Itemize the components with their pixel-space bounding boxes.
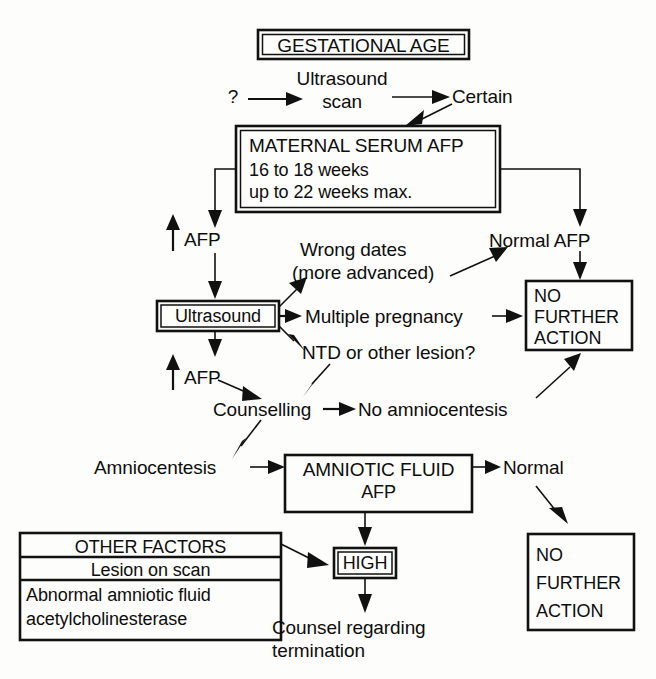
maternal-serum-afp-title: MATERNAL SERUM AFP [249,135,499,157]
raised-afp-arrow-glyph-1 [166,214,180,251]
wrong-dates-label-line2: (more advanced) [292,262,472,284]
no-further-action-top-line2: FURTHER [534,307,634,328]
counsel-termination-line1: Counsel regarding [272,617,492,639]
gestational-age-label: GESTATIONAL AGE [258,35,469,57]
edge-amniocentesis-to-amniotic-fluid-afp [250,460,285,474]
edge-amniotic-fluid-afp-to-high [358,512,372,546]
amniotic-fluid-afp-line2: AFP [288,482,469,503]
edge-ntd-lesion-to-counselling [303,364,330,397]
edge-normal-to-no-further-action-bottom [536,486,568,524]
edge-ultrasound-box-to-multiple-pregnancy [279,309,302,323]
edge-counselling-to-amniocentesis [232,420,261,459]
no-further-action-bottom-line1: NO [536,545,636,566]
ultrasound-scan-label-line1: Ultrasound [292,68,392,90]
other-factors-row2-line1: Abnormal amniotic fluid [26,585,281,606]
amniotic-fluid-afp-title: AMNIOTIC FLUID [288,459,469,481]
no-further-action-top-line1: NO [534,286,634,307]
raised-afp-arrow-glyph-2 [166,354,180,390]
other-factors-row2-line2: acetylcholinesterase [26,609,281,630]
edge-high-to-counsel-termination [358,578,372,613]
edge-amniotic-fluid-afp-to-normal [472,460,501,474]
normal-afp-label: Normal AFP [489,230,619,252]
edge-no-amniocentesis-to-no-further-action-top [536,353,581,398]
no-further-action-bottom-line3: ACTION [536,601,636,622]
maternal-serum-afp-line3: up to 22 weeks max. [249,182,499,203]
other-factors-header: OTHER FACTORS [20,537,281,558]
ultrasound-box-label: Ultrasound [161,306,275,327]
edge-ultrasound-scan-to-certain [392,90,450,104]
ntd-or-other-lesion-label: NTD or other lesion? [302,342,512,364]
question-mark-label: ? [222,86,244,108]
counselling-label: Counselling [213,399,333,421]
edge-ultrasound-box-to-raised-afp-2 [208,331,222,357]
other-factors-row1: Lesion on scan [20,560,281,581]
high-label: HIGH [338,553,392,574]
amniocentesis-label: Amniocentesis [94,457,254,479]
normal-label: Normal [503,457,603,479]
ultrasound-scan-label-line2: scan [292,91,392,113]
no-further-action-top-line3: ACTION [534,328,634,349]
counsel-termination-line2: termination [272,640,492,662]
edge-other-factors-to-high [281,544,329,568]
raised-afp-label-1: AFP [184,229,244,251]
edge-maternal-serum-afp-to-normal-afp [500,169,587,227]
edge-raised-afp-to-ultrasound-box [208,253,222,299]
no-further-action-bottom-line2: FURTHER [536,573,636,594]
certain-label: Certain [452,86,532,108]
edge-normal-afp-to-no-further-action-top [573,251,587,280]
raised-afp-label-2: AFP [184,367,244,389]
multiple-pregnancy-label: Multiple pregnancy [305,306,505,328]
edge-maternal-serum-afp-to-raised-afp [208,169,236,228]
no-amniocentesis-label: No amniocentesis [358,399,548,421]
edge-certain-to-maternal-serum-afp [405,104,452,126]
wrong-dates-label-line1: Wrong dates [300,239,470,261]
flowchart-canvas: GESTATIONAL AGE ? Ultrasound scan Certai… [0,0,656,679]
maternal-serum-afp-line2: 16 to 18 weeks [249,160,499,181]
